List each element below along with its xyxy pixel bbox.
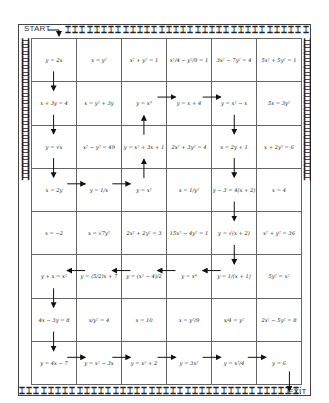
- maze-cell: y = x³: [122, 82, 167, 125]
- decorative-border-right: ⌶⌶⌶⌶⌶⌶⌶⌶⌶⌶⌶⌶⌶⌶⌶⌶⌶⌶⌶⌶⌶⌶⌶⌶⌶⌶⌶⌶⌶⌶⌶⌶⌶⌶⌶⌶⌶⌶⌶⌶: [302, 38, 311, 370]
- maze-cell: 5x² + 5y² = 1: [257, 39, 302, 82]
- maze-cell: 15x² − 4y² = 1: [167, 212, 212, 255]
- maze-cell: 2x² + 3y² = 4: [167, 126, 212, 169]
- maze-cell: 5x = 3y²: [257, 82, 302, 125]
- maze-cell: y = 3x²: [167, 342, 212, 385]
- maze-cell: y = x²: [122, 169, 167, 212]
- maze-cell: x = −2: [32, 212, 77, 255]
- maze-cell: y = (5/2)x + 7: [77, 255, 122, 298]
- maze-cell: y = x⁵ + 2: [122, 342, 167, 385]
- maze-cell: x = y²/9: [167, 299, 212, 342]
- maze-cell: y − 3 = 4(x + 2): [212, 169, 257, 212]
- maze-cell: y = x² − 3x: [77, 342, 122, 385]
- maze-cell: y = 1/x: [77, 169, 122, 212]
- maze-cell: 2x² + 2y² = 3: [122, 212, 167, 255]
- maze-cell: x²/4 − y²/9 = 1: [167, 39, 212, 82]
- maze-cell: x² + y² = 1: [122, 39, 167, 82]
- maze-cell: y = x² − x: [212, 82, 257, 125]
- maze-cell: y = 2x: [32, 39, 77, 82]
- maze-cell: y = √x: [32, 126, 77, 169]
- maze-cell: y = √(x + 2): [212, 212, 257, 255]
- maze-cell: x = 1/y²: [167, 169, 212, 212]
- exit-label: EXIT: [288, 387, 307, 396]
- maze-cell: 5y² = x²: [257, 255, 302, 298]
- maze-cell: 4x − 3y = 8: [32, 299, 77, 342]
- maze-cell: x/4 = y²: [212, 299, 257, 342]
- decorative-border-bottom: ⌶⌶⌶⌶⌶⌶⌶⌶⌶⌶⌶⌶⌶⌶⌶⌶⌶⌶⌶⌶⌶⌶⌶⌶⌶⌶⌶⌶⌶⌶⌶⌶⌶⌶⌶⌶⌶⌶⌶⌶: [19, 386, 301, 396]
- maze-cell: y = x² + 3x + 1: [122, 126, 167, 169]
- maze-cell: x² − y² = 49: [77, 126, 122, 169]
- maze-cell: y = x²/4: [212, 342, 257, 385]
- maze-cell: x = y² + 3y: [77, 82, 122, 125]
- maze-cell: y = 1/(x + 1): [212, 255, 257, 298]
- maze-cell: x/y² = 4: [77, 299, 122, 342]
- maze-cell: 2x² − 5y² = 8: [257, 299, 302, 342]
- maze-cell: y = x + 4: [167, 82, 212, 125]
- maze-cell: x = 4: [257, 169, 302, 212]
- maze-cell: y = x⁴: [167, 255, 212, 298]
- maze-grid: y = 2xx = y²x² + y² = 1x²/4 − y²/9 = 13x…: [31, 38, 302, 385]
- maze-cell: y = (x² − 4)/2: [122, 255, 167, 298]
- maze-cell: x² + y² = 36: [257, 212, 302, 255]
- maze-cell: x = 2y + 1: [212, 126, 257, 169]
- start-label: START: [24, 24, 50, 33]
- maze-cell: x = y²: [77, 39, 122, 82]
- maze-cell: y = 6: [257, 342, 302, 385]
- maze-cell: x + 3y = 4: [32, 82, 77, 125]
- maze-cell: x + 2y² = 6: [257, 126, 302, 169]
- maze-cell: x = 10: [122, 299, 167, 342]
- decorative-border-top: ⌶⌶⌶⌶⌶⌶⌶⌶⌶⌶⌶⌶⌶⌶⌶⌶⌶⌶⌶⌶⌶⌶⌶⌶⌶⌶⌶⌶⌶⌶⌶⌶⌶⌶⌶⌶⌶⌶⌶⌶: [65, 25, 310, 37]
- maze-cell: 3x² − 7y² = 4: [212, 39, 257, 82]
- maze-cell: y + x = x²: [32, 255, 77, 298]
- decorative-border-left: ⌶⌶⌶⌶⌶⌶⌶⌶⌶⌶⌶⌶⌶⌶⌶⌶⌶⌶⌶⌶⌶⌶⌶⌶⌶⌶⌶⌶⌶⌶⌶⌶⌶⌶⌶⌶⌶⌶⌶⌶: [20, 38, 30, 386]
- maze-cell: x = 2y: [32, 169, 77, 212]
- maze-cell: x = √7y²: [77, 212, 122, 255]
- maze-cell: y = 4x − 7: [32, 342, 77, 385]
